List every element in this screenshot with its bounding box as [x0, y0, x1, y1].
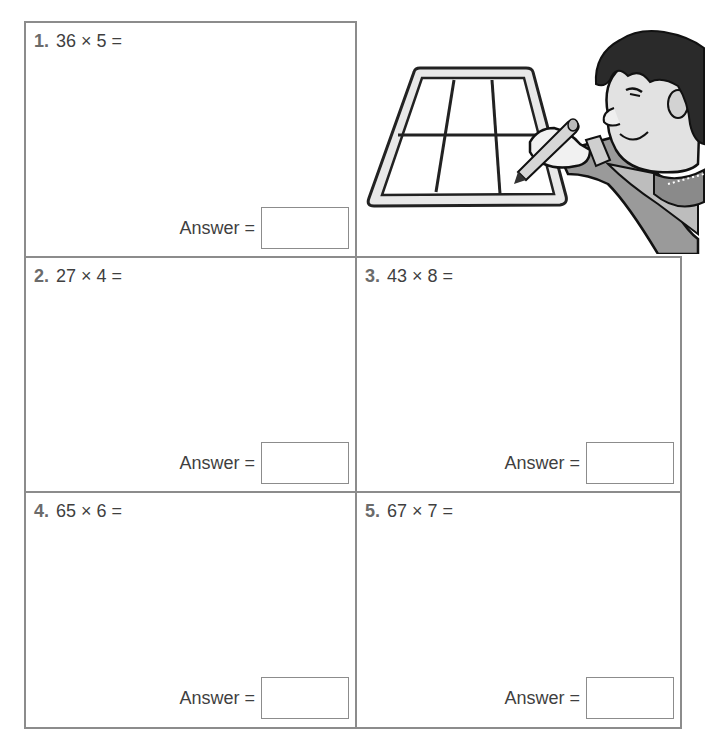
answer-label: Answer = — [504, 688, 580, 709]
problem-3-cell: 3.43 × 8 = Answer = — [355, 256, 682, 494]
problem-5-cell: 5.67 × 7 = Answer = — [355, 491, 682, 729]
answer-label: Answer = — [179, 218, 255, 239]
problem-3-question: 3.43 × 8 = — [365, 266, 453, 287]
problem-expression: 36 × 5 = — [56, 31, 122, 51]
problem-1-question: 1.36 × 5 = — [34, 31, 122, 52]
answer-box-5[interactable] — [586, 677, 674, 719]
problem-number: 3. — [365, 266, 380, 286]
problem-expression: 67 × 7 = — [387, 501, 453, 521]
answer-box-4[interactable] — [261, 677, 349, 719]
answer-row: Answer = — [179, 677, 349, 719]
problem-1-cell: 1.36 × 5 = Answer = — [24, 21, 357, 259]
problem-number: 1. — [34, 31, 49, 51]
answer-row: Answer = — [179, 207, 349, 249]
problem-2-question: 2.27 × 4 = — [34, 266, 122, 287]
problem-expression: 43 × 8 = — [387, 266, 453, 286]
problem-number: 2. — [34, 266, 49, 286]
answer-label: Answer = — [179, 688, 255, 709]
problem-number: 5. — [365, 501, 380, 521]
problem-expression: 27 × 4 = — [56, 266, 122, 286]
answer-row: Answer = — [504, 677, 674, 719]
problem-4-cell: 4.65 × 6 = Answer = — [24, 491, 357, 729]
answer-label: Answer = — [504, 453, 580, 474]
answer-label: Answer = — [179, 453, 255, 474]
problem-number: 4. — [34, 501, 49, 521]
boy-drawing-illustration — [358, 24, 706, 254]
answer-row: Answer = — [504, 442, 674, 484]
answer-box-2[interactable] — [261, 442, 349, 484]
answer-box-1[interactable] — [261, 207, 349, 249]
problem-4-question: 4.65 × 6 = — [34, 501, 122, 522]
problem-5-question: 5.67 × 7 = — [365, 501, 453, 522]
boy-icon — [514, 31, 704, 254]
answer-row: Answer = — [179, 442, 349, 484]
problem-2-cell: 2.27 × 4 = Answer = — [24, 256, 357, 494]
answer-box-3[interactable] — [586, 442, 674, 484]
problem-expression: 65 × 6 = — [56, 501, 122, 521]
